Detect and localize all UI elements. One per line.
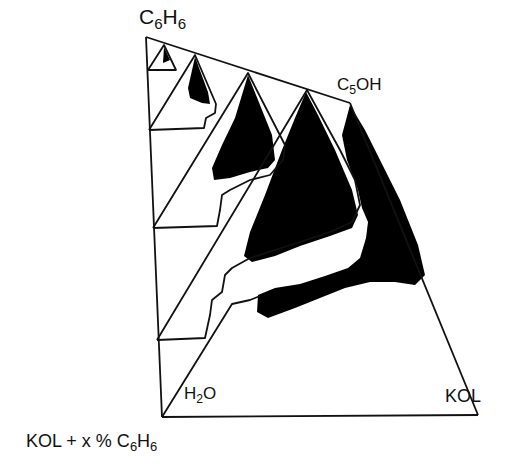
label-text: KOL + x % C: [26, 431, 130, 451]
black-phase-regions: [163, 47, 425, 318]
axis-label: KOL + x % C6H6: [26, 432, 157, 454]
label-subscript: 6: [178, 15, 186, 32]
label-subscript: 6: [154, 15, 162, 32]
label-text: OH: [356, 75, 382, 94]
label-text: O: [203, 384, 216, 403]
ternary-0-frame: [148, 45, 176, 70]
kol-vertex-label: KOL: [445, 387, 481, 405]
water-vertex-label: H2O: [184, 385, 216, 405]
benzene-vertex-label: C6H6: [139, 6, 186, 31]
label-subscript: 6: [130, 439, 137, 454]
region-2: [212, 75, 275, 180]
label-text: C: [337, 75, 349, 94]
label-text: H: [184, 384, 196, 403]
label-text: C: [139, 5, 154, 28]
label-text: H: [137, 431, 150, 451]
outer-base: [162, 415, 478, 417]
label-text: H: [163, 5, 178, 28]
label-subscript: 6: [150, 439, 157, 454]
pentanol-vertex-label: C5OH: [337, 76, 382, 96]
